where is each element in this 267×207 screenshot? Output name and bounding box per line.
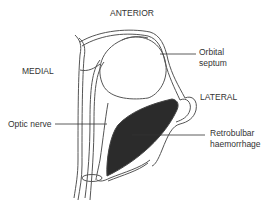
retrobulbar-label-line1: Retrobulbar xyxy=(210,128,254,139)
globe xyxy=(100,37,166,99)
optic-nerve-label: Optic nerve xyxy=(8,119,51,130)
lateral-label: LATERAL xyxy=(200,92,237,103)
anterior-label: ANTERIOR xyxy=(110,8,154,19)
orbital-septum-label-line1: Orbital xyxy=(199,47,224,58)
medial-orbital-wall xyxy=(74,35,81,198)
orbit-diagram xyxy=(0,0,267,207)
retrobulbar-label-line2: haemorrhage xyxy=(210,139,261,150)
orbital-septum-label-line2: septum xyxy=(199,58,227,69)
medial-label: MEDIAL xyxy=(22,66,54,77)
